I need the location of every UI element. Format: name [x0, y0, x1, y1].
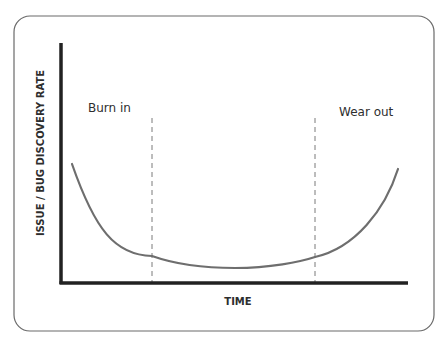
y-axis-label: ISSUE / BUG DISCOVERY RATE [35, 70, 46, 236]
wear-out-label: Wear out [339, 105, 394, 119]
bathtub-diagram: Burn in Wear out TIME ISSUE / BUG DISCOV… [0, 0, 448, 342]
x-axis-label: TIME [224, 296, 251, 307]
burn-in-label: Burn in [88, 101, 131, 115]
